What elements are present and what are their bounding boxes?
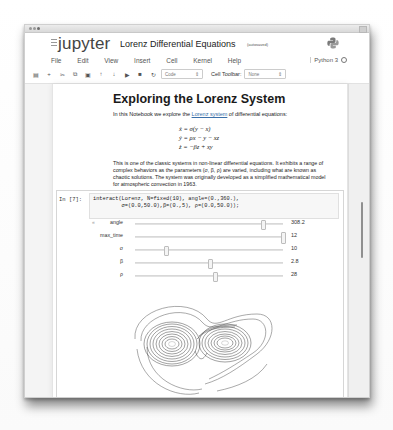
lorenz-system-link[interactable]: Lorenz system xyxy=(192,111,228,117)
slider-angle: angle 308.2 xyxy=(57,219,343,228)
slider-sigma: σ 10 xyxy=(57,245,343,254)
equation-y: ẏ = ρx − y − xz xyxy=(179,134,219,141)
slider-label: β xyxy=(120,258,123,264)
slider-handle[interactable] xyxy=(281,232,286,244)
scrollbar-thumb[interactable] xyxy=(361,202,363,258)
slider-value[interactable]: 28 xyxy=(291,271,297,277)
slider-rho: ρ 28 xyxy=(57,271,343,280)
window-titlebar xyxy=(25,25,369,33)
notebook-container: Exploring the Lorenz System In this Note… xyxy=(52,84,348,398)
equation-x: ẋ = σ(y − x) xyxy=(179,125,210,132)
markdown-intro: In this Notebook we explore the Lorenz s… xyxy=(113,111,287,117)
restart-button[interactable]: ↻ xyxy=(148,69,158,79)
equation-z: ż = −βz + xy xyxy=(179,143,213,150)
code-cell[interactable]: In [7]: interact(Lorenz, N=fixed(10), an… xyxy=(56,190,344,398)
jupyter-logo-icon xyxy=(51,37,57,49)
slider-label: max_time xyxy=(100,232,123,238)
save-button[interactable]: ▤ xyxy=(31,69,41,79)
copy-button[interactable]: ⧉ xyxy=(70,69,80,79)
jupyter-logo-text[interactable]: jupyter xyxy=(58,34,110,54)
slider-handle[interactable] xyxy=(213,272,218,282)
menu-file[interactable]: File xyxy=(51,57,61,64)
slider-handle[interactable] xyxy=(261,220,266,230)
select-arrows-icon: ⇕ xyxy=(278,72,282,77)
input-prompt: In [7]: xyxy=(59,196,82,203)
menu-kernel[interactable]: Kernel xyxy=(193,57,212,64)
menu-insert[interactable]: Insert xyxy=(134,57,150,64)
cell-type-value: Code xyxy=(165,72,176,77)
slider-track[interactable] xyxy=(135,275,283,277)
menu-edit[interactable]: Edit xyxy=(77,57,88,64)
fullscreen-icon[interactable] xyxy=(359,26,367,33)
run-button[interactable]: ▶ xyxy=(122,69,132,79)
kernel-indicator: Python 3 xyxy=(310,57,347,63)
code-editor[interactable]: interact(Lorenz, N=fixed(10), angle=(0.,… xyxy=(89,193,339,219)
menu-cell[interactable]: Cell xyxy=(166,57,177,64)
slider-value[interactable]: 308.2 xyxy=(291,219,305,225)
slider-max-time: max_time 12 xyxy=(57,232,343,241)
cut-button[interactable]: ✂ xyxy=(57,69,67,79)
save-status: (autosaved) xyxy=(247,42,268,47)
cell-toolbar-value: None xyxy=(248,72,259,77)
maximize-window-button[interactable] xyxy=(37,27,40,30)
code-line-2: σ=(0.0,50.0),β=(0.,5), ρ=(0.0,50.0)); xyxy=(93,203,335,210)
python-logo-icon xyxy=(327,37,339,49)
close-window-button[interactable] xyxy=(29,27,32,30)
cell-toolbar-select[interactable]: None⇕ xyxy=(244,69,286,79)
cell-type-select[interactable]: Code⇕ xyxy=(161,69,203,79)
cell-toolbar-label: Cell Toolbar: xyxy=(211,71,241,77)
slider-track[interactable] xyxy=(135,223,283,225)
select-arrows-icon: ⇕ xyxy=(195,72,199,77)
notebook-header: jupyter Lorenz Differential Equations (a… xyxy=(25,33,369,84)
menu-bar: File Edit View Insert Cell Kernel Help xyxy=(51,57,255,64)
slider-handle[interactable] xyxy=(164,246,169,256)
slider-track[interactable] xyxy=(135,236,283,238)
minimize-window-button[interactable] xyxy=(33,27,36,30)
code-line-1: interact(Lorenz, N=fixed(10), angle=(0.,… xyxy=(93,196,335,203)
slider-track[interactable] xyxy=(135,262,283,264)
interrupt-button[interactable]: ■ xyxy=(135,69,145,79)
insert-cell-button[interactable]: + xyxy=(44,69,54,79)
slider-label: σ xyxy=(120,245,123,251)
slider-value[interactable]: 2.8 xyxy=(291,258,299,264)
markdown-heading: Exploring the Lorenz System xyxy=(113,92,285,106)
slider-label: ρ xyxy=(120,271,123,277)
menu-help[interactable]: Help xyxy=(228,57,241,64)
intro-text-end: of differential equations: xyxy=(227,111,287,117)
slider-handle[interactable] xyxy=(208,259,213,269)
kernel-name: Python 3 xyxy=(314,57,338,63)
menu-view[interactable]: View xyxy=(104,57,118,64)
move-up-button[interactable]: ↑ xyxy=(96,69,106,79)
slider-label: angle xyxy=(110,219,123,225)
slider-beta: β 2.8 xyxy=(57,258,343,267)
slider-track[interactable] xyxy=(135,249,283,251)
notebook-toolbar: ▤ + ✂ ⧉ ▣ ↑ ↓ ▶ ■ ↻ Code⇕ Cell Toolbar: … xyxy=(25,67,369,81)
page-scrollbar[interactable] xyxy=(348,84,369,398)
kernel-idle-icon xyxy=(341,57,347,63)
lorenz-attractor-plot xyxy=(127,289,277,398)
browser-window: jupyter Lorenz Differential Equations (a… xyxy=(24,24,370,398)
markdown-paragraph: This is one of the classic systems in no… xyxy=(113,160,333,188)
paste-button[interactable]: ▣ xyxy=(83,69,93,79)
intro-text: In this Notebook we explore the xyxy=(113,111,192,117)
slider-value[interactable]: 12 xyxy=(291,232,297,238)
slider-value[interactable]: 10 xyxy=(291,245,297,251)
move-down-button[interactable]: ↓ xyxy=(109,69,119,79)
notebook-title[interactable]: Lorenz Differential Equations xyxy=(120,39,235,49)
